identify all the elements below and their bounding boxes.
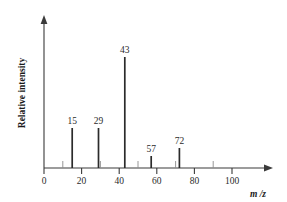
peak-label-29: 29	[94, 116, 104, 126]
x-ticklabel-100: 100	[225, 176, 240, 186]
y-axis-title: Relative intensity	[17, 58, 27, 129]
x-axis-major-ticks	[44, 168, 232, 174]
y-axis-group	[41, 15, 48, 168]
spectrum-peak-labels: 15 29 43 57 72	[67, 45, 184, 154]
x-axis-minor-ticks	[63, 161, 213, 168]
mass-spectrum-plot: 0 20 40 60 80 100 15 29 43 57 72 m /z Re…	[0, 0, 287, 202]
mass-spectrum-figure: 0 20 40 60 80 100 15 29 43 57 72 m /z Re…	[0, 0, 287, 202]
x-ticklabel-80: 80	[190, 176, 200, 186]
x-axis-arrow-icon	[264, 165, 273, 172]
peak-label-43: 43	[120, 45, 130, 55]
x-ticklabel-40: 40	[114, 176, 124, 186]
peak-label-72: 72	[175, 136, 185, 146]
x-ticklabel-60: 60	[152, 176, 162, 186]
y-axis-arrow-icon	[41, 15, 48, 24]
x-axis-title: m /z	[250, 189, 266, 199]
x-ticklabel-20: 20	[77, 176, 87, 186]
spectrum-peaks	[72, 57, 179, 168]
peak-label-15: 15	[67, 116, 77, 126]
x-axis-group	[44, 165, 273, 172]
x-axis-tick-labels: 0 20 40 60 80 100	[42, 176, 240, 186]
peak-label-57: 57	[146, 144, 156, 154]
x-ticklabel-0: 0	[42, 176, 47, 186]
